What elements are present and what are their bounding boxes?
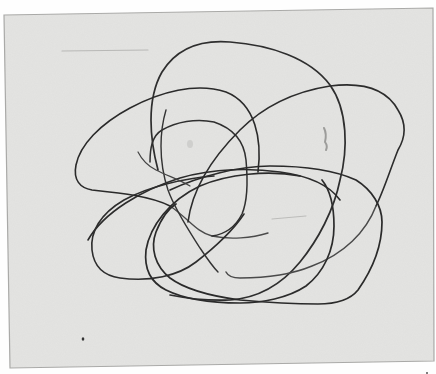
ink-dot-bottom-left [82, 337, 85, 341]
scanned-drawing: Scribble drawing of tangled looping line… [0, 0, 436, 374]
paper-sheet [4, 8, 434, 368]
smudge-center [187, 140, 193, 148]
drawing-canvas [0, 0, 436, 374]
